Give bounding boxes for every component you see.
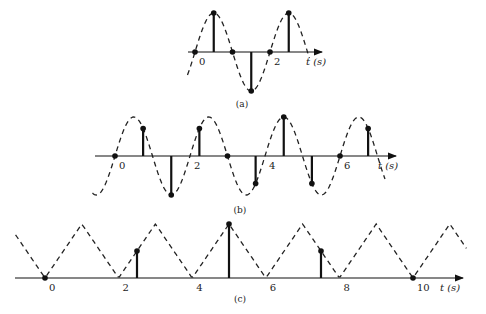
sample-point	[267, 49, 273, 55]
panel-b: 0246t (s)(b)	[93, 114, 399, 215]
tick-label: 2	[194, 160, 200, 171]
sample-point	[42, 275, 48, 281]
panel-c: 0246810t (s)(c)	[15, 221, 466, 304]
sample-point	[134, 248, 140, 254]
tick-label: 0	[119, 160, 125, 171]
panel-caption: (a)	[236, 99, 248, 109]
sample-point	[230, 49, 236, 55]
continuous-signal-curve	[16, 224, 467, 277]
sample-point	[226, 221, 232, 227]
panel-caption: (b)	[234, 205, 247, 215]
panel-a: 02t (s)(a)	[188, 10, 327, 109]
axis-label: t (s)	[378, 160, 398, 171]
sample-point	[192, 49, 198, 55]
panel-caption: (c)	[234, 294, 246, 304]
sampling-figure: 02t (s)(a) 0246t (s)(b) 0246810t (s)(c)	[0, 0, 486, 314]
sample-point	[365, 126, 371, 132]
tick-label: 2	[274, 56, 280, 67]
sample-point	[248, 88, 254, 94]
sample-point	[337, 153, 343, 159]
sample-point	[309, 181, 315, 187]
tick-label: 6	[270, 282, 276, 293]
tick-label: 8	[343, 282, 349, 293]
sample-point	[281, 114, 287, 120]
tick-label: 2	[123, 282, 129, 293]
tick-label: 10	[417, 282, 430, 293]
axis-label: t (s)	[440, 282, 460, 293]
sample-point	[286, 10, 292, 16]
sample-point	[225, 153, 231, 159]
tick-label: 6	[344, 160, 350, 171]
sample-point	[211, 10, 217, 16]
tick-label: 4	[196, 282, 202, 293]
sample-point	[168, 192, 174, 198]
tick-label: 4	[269, 160, 275, 171]
tick-label: 0	[199, 56, 205, 67]
sample-point	[197, 126, 203, 132]
sample-point	[410, 275, 416, 281]
sample-point	[112, 153, 118, 159]
axis-label: t (s)	[306, 56, 326, 67]
sample-point	[253, 181, 259, 187]
sample-point	[318, 248, 324, 254]
sample-point	[140, 126, 146, 132]
tick-label: 0	[49, 282, 55, 293]
